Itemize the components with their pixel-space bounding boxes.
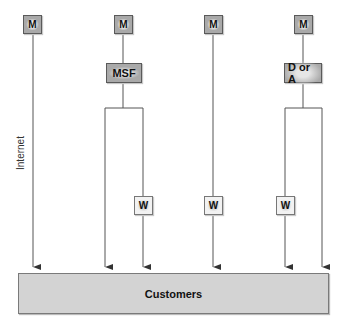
internet-label: Internet (15, 133, 29, 173)
m-node-3: M (204, 15, 223, 34)
w-node-label: W (279, 200, 292, 211)
m-node-label: M (297, 19, 309, 30)
m-node-label: M (207, 19, 219, 30)
d-or-a-node: D or A (284, 63, 322, 83)
m-node-label: M (117, 19, 129, 30)
w-node-2: W (204, 196, 223, 215)
w-node-label: W (207, 200, 220, 211)
w-node-3: W (276, 196, 295, 215)
customers-label: Customers (145, 288, 202, 300)
msf-node: MSF (106, 63, 142, 83)
d-or-a-node-label: D or A (285, 61, 321, 85)
m-node-1: M (23, 15, 42, 34)
w-node-label: W (137, 200, 150, 211)
w-node-1: W (134, 196, 153, 215)
msf-node-label: MSF (109, 67, 138, 79)
customers-box: Customers (18, 273, 329, 314)
m-node-4: M (294, 15, 313, 34)
m-node-label: M (26, 19, 38, 30)
m-node-2: M (114, 15, 133, 34)
